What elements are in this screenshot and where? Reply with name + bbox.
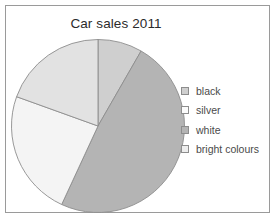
pie-slices — [11, 40, 184, 213]
legend-swatch-icon — [181, 145, 189, 153]
legend-item-silver[interactable]: silver — [181, 104, 273, 117]
pie-chart-figure: Car sales 2011 blacksilverwhitebright co… — [0, 0, 276, 219]
chart-title: Car sales 2011 — [0, 16, 232, 31]
legend-item-bright-colours[interactable]: bright colours — [181, 143, 273, 156]
legend-item-label: silver — [196, 104, 221, 116]
legend-item-label: white — [196, 124, 221, 136]
legend-item-label: black — [196, 85, 221, 97]
legend-item-white[interactable]: white — [181, 123, 273, 136]
legend-item-label: bright colours — [196, 143, 259, 155]
legend-swatch-icon — [181, 126, 189, 134]
legend-item-black[interactable]: black — [181, 84, 273, 97]
legend-swatch-icon — [181, 106, 189, 114]
pie-chart-plot — [10, 38, 186, 214]
chart-legend: blacksilverwhitebright colours — [181, 84, 273, 162]
legend-swatch-icon — [181, 87, 189, 95]
